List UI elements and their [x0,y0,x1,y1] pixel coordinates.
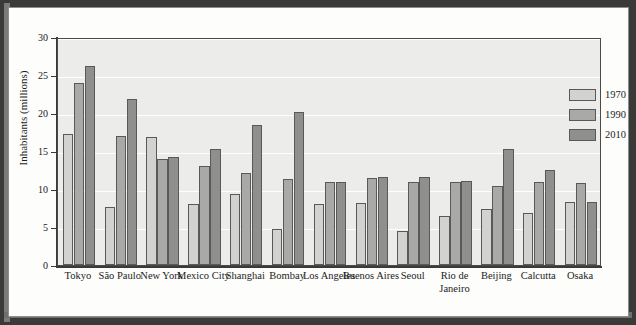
legend-label: 1990 [605,109,626,120]
bar [272,229,282,265]
bar [534,182,544,265]
plot-area: 197019902010 [57,38,601,266]
bar [367,178,377,265]
bar [565,202,575,265]
bar [85,66,95,265]
legend-swatch-1990 [569,109,596,121]
bar [587,202,597,265]
bar-group [225,37,267,265]
y-tick-label-15: 15 [22,147,48,157]
bar [503,149,513,265]
bar [336,182,346,265]
legend-label: 2010 [605,129,626,140]
bar [241,173,251,265]
bar [408,182,418,265]
bar-group [351,37,393,265]
bar [439,216,449,265]
bar [419,177,429,265]
bar-group [476,37,518,265]
bar [378,177,388,265]
bar-group [518,37,560,265]
y-tick-label-0: 0 [22,261,48,271]
bar [314,204,324,265]
bar [545,170,555,265]
x-axis-line [56,266,602,268]
bar [356,203,366,265]
bar [397,231,407,265]
bar [576,183,586,265]
bar-group [267,37,309,265]
bar [523,213,533,265]
y-tick-label-10: 10 [22,185,48,195]
bar [116,136,126,265]
bar-group [58,37,100,265]
bar [450,182,460,265]
bar [63,134,73,265]
bar [105,207,115,265]
legend-item: 1970 [569,86,626,103]
y-tick-label-30: 30 [22,33,48,43]
legend-swatch-2010 [569,129,596,141]
bar [252,125,262,265]
bar [168,157,178,265]
bar [294,112,304,265]
bar-group [142,37,184,265]
bar [283,179,293,265]
legend-item: 1990 [569,106,626,123]
bar [461,181,471,265]
grouped-bar-chart: Inhabitants (millions) 051015202530 1970… [0,0,636,325]
bar [146,137,156,265]
bar [492,186,502,265]
y-tick-label-20: 20 [22,109,48,119]
bar [127,99,137,265]
bar-group [560,37,602,265]
bar-group [100,37,142,265]
bar-group [393,37,435,265]
bar-group [435,37,477,265]
bar [230,194,240,265]
legend-swatch-1970 [569,89,596,101]
x-tick-label: Osaka [551,270,609,283]
bar-group [184,37,226,265]
bar [210,149,220,265]
bar [199,166,209,265]
y-tick-label-5: 5 [22,223,48,233]
legend: 197019902010 [569,86,626,146]
bar [481,209,491,265]
bar [325,182,335,265]
bar [188,204,198,265]
bar [157,159,167,265]
bar-group [309,37,351,265]
y-tick-label-25: 25 [22,71,48,81]
legend-item: 2010 [569,126,626,143]
legend-label: 1970 [605,89,626,100]
bar [74,83,84,265]
